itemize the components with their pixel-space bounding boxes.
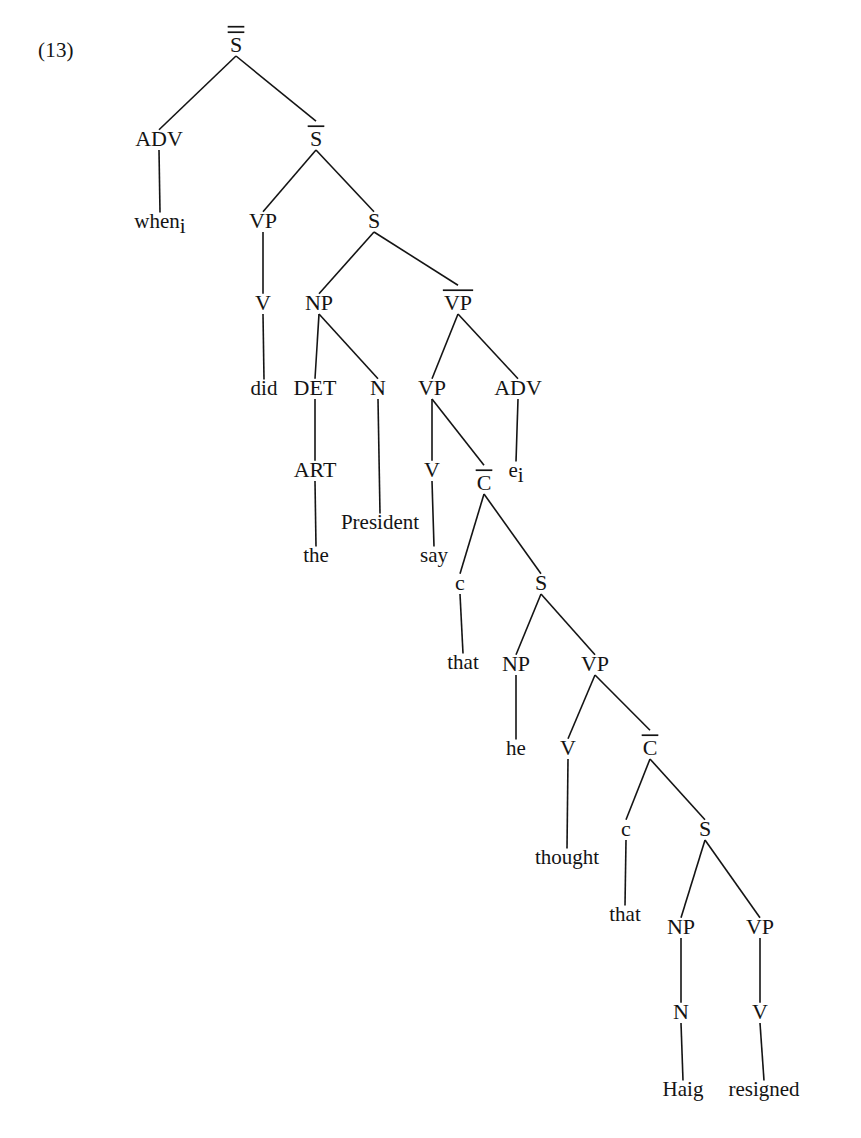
node-label: that — [447, 650, 479, 674]
tree-branch — [568, 675, 595, 739]
node-label: the — [303, 543, 329, 567]
node-label: S — [368, 208, 380, 233]
node-label: S — [230, 32, 242, 57]
phrase-structure-tree: SADVSwheniVPSVNPVPdidDETNVPADVARTVeiCPre… — [0, 0, 861, 1138]
node-label: N — [370, 375, 386, 400]
tree-branch — [705, 840, 760, 918]
node-label: ei — [508, 458, 523, 487]
tree-terminal-president: President — [341, 510, 419, 534]
tree-terminal-that: that — [609, 902, 641, 926]
node-label: VP — [418, 375, 446, 400]
tree-node-s: S — [699, 816, 711, 841]
node-label: ADV — [135, 126, 183, 151]
tree-branch — [159, 56, 236, 130]
node-label: V — [560, 735, 576, 760]
tree-terminal-the: the — [303, 543, 329, 567]
tree-node-np: NP — [667, 914, 695, 939]
tree-branch — [595, 675, 650, 730]
tree-node-np: NP — [305, 290, 333, 315]
tree-branch — [263, 150, 316, 212]
tree-node-adv: ADV — [494, 375, 542, 400]
tree-branch — [516, 399, 518, 461]
tree-branch — [378, 399, 380, 513]
tree-terminal-he: he — [506, 736, 526, 760]
tree-node-adv: ADV — [135, 126, 183, 151]
node-label: C — [643, 735, 658, 760]
node-label: NP — [502, 651, 530, 676]
node-label: S — [699, 816, 711, 841]
node-label: say — [420, 543, 448, 567]
tree-node-det: DET — [294, 375, 337, 400]
tree-branch — [458, 314, 518, 379]
tree-node-s: S — [308, 126, 325, 151]
node-label: c — [455, 570, 465, 595]
tree-node-art: ART — [294, 457, 337, 482]
tree-node-s: S — [368, 208, 380, 233]
tree-terminal-that: that — [447, 650, 479, 674]
tree-branch — [236, 56, 316, 121]
tree-terminal-resigned: resigned — [728, 1077, 800, 1101]
node-label: resigned — [728, 1077, 800, 1101]
tree-node-v: V — [255, 290, 271, 315]
node-label: thought — [535, 845, 599, 869]
tree-node-c: c — [455, 570, 465, 595]
tree-branch — [315, 314, 319, 379]
tree-node-layer: SADVSwheniVPSVNPVPdidDETNVPADVARTVeiCPre… — [134, 27, 800, 1101]
tree-terminal-e: ei — [508, 458, 523, 487]
tree-node-n: N — [370, 375, 386, 400]
node-label: S — [310, 126, 322, 151]
node-label: DET — [294, 375, 337, 400]
node-label: VP — [249, 208, 277, 233]
tree-branch — [516, 594, 541, 655]
node-label: did — [251, 376, 278, 400]
node-label: ADV — [494, 375, 542, 400]
tree-node-v: V — [424, 457, 440, 482]
node-label: wheni — [134, 209, 186, 238]
node-label: V — [255, 290, 271, 315]
tree-branch — [432, 481, 434, 546]
tree-node-c: c — [621, 816, 631, 841]
node-label: V — [752, 999, 768, 1024]
node-label: VP — [746, 914, 774, 939]
tree-terminal-did: did — [251, 376, 278, 400]
tree-branch — [316, 150, 374, 212]
node-label: NP — [667, 914, 695, 939]
tree-node-v: V — [560, 735, 576, 760]
tree-branch — [319, 314, 378, 379]
tree-node-vp: VP — [746, 914, 774, 939]
tree-branch — [625, 840, 626, 905]
tree-node-n: N — [673, 999, 689, 1024]
node-label: V — [424, 457, 440, 482]
node-label: N — [673, 999, 689, 1024]
figure-root: (13) SADVSwheniVPSVNPVPdidDETNVPADVARTVe… — [0, 0, 861, 1138]
tree-branch — [681, 1023, 683, 1080]
tree-branch — [484, 494, 541, 574]
tree-terminal-say: say — [420, 543, 448, 567]
tree-node-vp: VP — [418, 375, 446, 400]
tree-terminal-thought: thought — [535, 845, 599, 869]
tree-node-c: C — [642, 735, 659, 760]
tree-branch — [460, 494, 484, 574]
tree-branch — [681, 840, 705, 918]
tree-node-vp: VP — [443, 290, 473, 315]
tree-branch — [760, 1023, 764, 1080]
tree-branch — [626, 759, 650, 820]
tree-terminal-when: wheni — [134, 209, 186, 238]
tree-branch — [567, 759, 568, 848]
node-label: VP — [581, 651, 609, 676]
tree-node-c: C — [476, 470, 493, 495]
tree-branch — [374, 232, 458, 285]
node-label: VP — [444, 290, 472, 315]
tree-terminal-haig: Haig — [663, 1077, 704, 1101]
node-label: Haig — [663, 1077, 704, 1101]
tree-node-vp: VP — [581, 651, 609, 676]
tree-branch — [650, 759, 705, 820]
tree-branch — [315, 481, 316, 546]
node-label: that — [609, 902, 641, 926]
node-label: S — [535, 570, 547, 595]
tree-node-s: S — [228, 27, 245, 57]
node-label: C — [477, 470, 492, 495]
tree-node-s: S — [535, 570, 547, 595]
tree-node-v: V — [752, 999, 768, 1024]
node-label: c — [621, 816, 631, 841]
